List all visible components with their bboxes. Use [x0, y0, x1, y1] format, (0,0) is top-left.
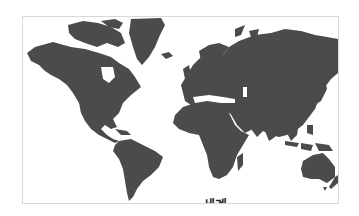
india — [263, 117, 281, 141]
australia — [301, 153, 335, 183]
south-america — [113, 139, 163, 201]
world-map — [23, 17, 338, 203]
map-label: 세계 — [203, 194, 226, 204]
greenland — [129, 18, 165, 65]
north-america — [27, 42, 141, 143]
madagascar — [237, 153, 243, 171]
world-map-frame: 세계 — [22, 16, 339, 204]
indonesia — [285, 141, 299, 147]
